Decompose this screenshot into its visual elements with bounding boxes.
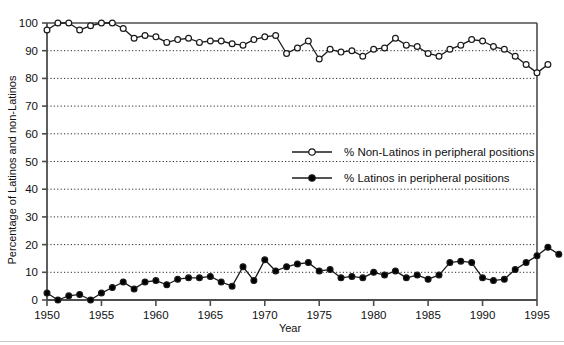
data-point-latinos: [207, 274, 213, 280]
data-point-latinos: [142, 279, 148, 285]
y-tick-labels: 0102030405060708090100: [19, 17, 47, 306]
data-point-latinos: [218, 279, 224, 285]
data-point-non_latinos: [218, 38, 224, 44]
y-tick-label-100: 100: [19, 17, 38, 29]
chart-figure: 0102030405060708090100 19501955196019651…: [0, 0, 564, 345]
data-point-non_latinos: [175, 37, 181, 43]
data-point-non_latinos: [131, 35, 137, 41]
data-point-latinos: [414, 272, 420, 278]
y-tick-label-20: 20: [25, 239, 38, 251]
data-point-non_latinos: [273, 33, 279, 39]
data-point-latinos: [153, 278, 159, 284]
data-point-non_latinos: [491, 44, 497, 50]
y-tick-label-60: 60: [25, 128, 38, 140]
data-point-latinos: [175, 276, 181, 282]
data-point-non_latinos: [153, 34, 159, 40]
x-tick-label-1980: 1980: [361, 309, 387, 321]
data-point-non_latinos: [436, 53, 442, 59]
data-point-non_latinos: [327, 46, 333, 52]
data-point-non_latinos: [523, 62, 529, 68]
y-tick-label-80: 80: [25, 72, 38, 84]
data-point-non_latinos: [120, 26, 126, 32]
x-tick-label-1995: 1995: [524, 309, 550, 321]
data-point-latinos: [393, 268, 399, 274]
data-point-non_latinos: [534, 70, 540, 76]
data-point-non_latinos: [305, 38, 311, 44]
data-point-latinos: [512, 267, 518, 273]
data-point-latinos: [131, 286, 137, 292]
x-tick-label-1970: 1970: [252, 309, 278, 321]
data-point-non_latinos: [501, 46, 507, 52]
x-tick-label-1990: 1990: [470, 309, 496, 321]
data-point-latinos: [480, 275, 486, 281]
data-point-latinos: [88, 297, 94, 303]
y-tick-label-70: 70: [25, 100, 38, 112]
line-chart: 0102030405060708090100 19501955196019651…: [0, 0, 564, 345]
data-point-latinos: [55, 297, 61, 303]
data-point-non_latinos: [207, 38, 213, 44]
x-tick-label-1985: 1985: [415, 309, 441, 321]
y-tick-label-90: 90: [25, 45, 38, 57]
data-point-non_latinos: [262, 34, 268, 40]
y-tick-label-30: 30: [25, 211, 38, 223]
x-tick-label-1965: 1965: [198, 309, 224, 321]
data-point-non_latinos: [99, 20, 105, 26]
data-point-non_latinos: [545, 62, 551, 68]
data-point-non_latinos: [251, 37, 257, 43]
legend-marker-open-circle-icon: [309, 149, 315, 155]
y-axis-title: Percentage of Latinos and non-Latinos: [6, 75, 18, 264]
x-tick-labels: 1950195519601965197019751980198519901995: [34, 300, 550, 321]
data-point-non_latinos: [316, 56, 322, 62]
data-point-non_latinos: [480, 38, 486, 44]
data-point-latinos: [534, 253, 540, 259]
data-point-non_latinos: [338, 49, 344, 55]
data-point-non_latinos: [447, 46, 453, 52]
data-point-non_latinos: [88, 23, 94, 29]
data-point-latinos: [305, 260, 311, 266]
data-point-non_latinos: [382, 45, 388, 51]
data-point-latinos: [469, 260, 475, 266]
series-line-latinos: [47, 247, 559, 300]
data-point-latinos: [382, 272, 388, 278]
data-point-latinos: [251, 278, 257, 284]
data-point-non_latinos: [109, 20, 115, 26]
data-point-latinos: [316, 268, 322, 274]
data-point-latinos: [229, 283, 235, 289]
y-tick-label-0: 0: [32, 294, 38, 306]
data-point-latinos: [371, 269, 377, 275]
data-point-latinos: [197, 275, 203, 281]
data-point-latinos: [338, 275, 344, 281]
page-divider: [0, 341, 564, 342]
y-tick-label-50: 50: [25, 156, 38, 168]
data-point-non_latinos: [360, 53, 366, 59]
data-point-latinos: [44, 290, 50, 296]
data-point-latinos: [120, 279, 126, 285]
data-point-latinos: [109, 285, 115, 291]
data-point-latinos: [284, 264, 290, 270]
data-point-latinos: [240, 264, 246, 270]
data-point-non_latinos: [44, 27, 50, 33]
data-point-latinos: [458, 258, 464, 264]
data-point-latinos: [273, 268, 279, 274]
x-tick-label-1975: 1975: [306, 309, 332, 321]
data-point-latinos: [186, 275, 192, 281]
data-point-non_latinos: [77, 27, 83, 33]
x-tick-label-1960: 1960: [143, 309, 169, 321]
data-point-non_latinos: [393, 35, 399, 41]
data-point-latinos: [99, 290, 105, 296]
data-point-non_latinos: [229, 41, 235, 47]
data-point-latinos: [295, 261, 301, 267]
data-point-non_latinos: [371, 46, 377, 52]
legend-label-0: % Non-Latinos in peripheral positions: [344, 146, 535, 158]
data-point-non_latinos: [66, 20, 72, 26]
data-point-non_latinos: [425, 51, 431, 57]
data-point-latinos: [545, 244, 551, 250]
data-point-latinos: [501, 276, 507, 282]
data-point-non_latinos: [284, 51, 290, 57]
data-point-latinos: [77, 292, 83, 298]
data-point-non_latinos: [55, 20, 61, 26]
data-point-latinos: [164, 282, 170, 288]
legend-label-1: % Latinos in peripheral positions: [344, 172, 510, 184]
data-point-non_latinos: [458, 42, 464, 48]
x-tick-label-1950: 1950: [34, 309, 60, 321]
